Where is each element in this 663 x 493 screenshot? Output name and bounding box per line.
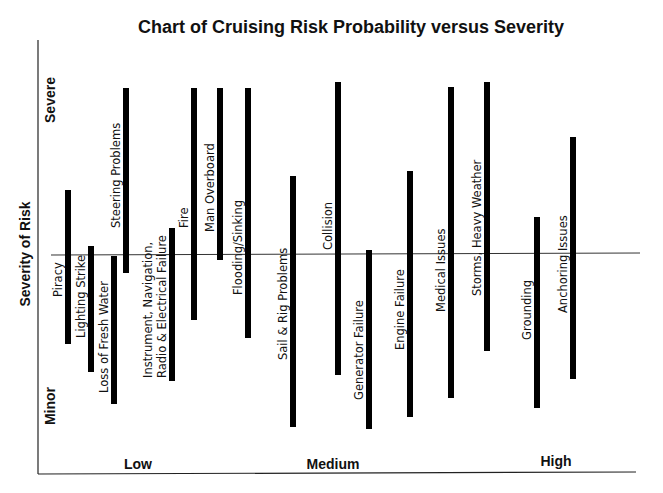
risk-bar: [245, 88, 251, 338]
risk-bar-label: Instrument, Navigation,: [141, 242, 155, 378]
risk-bar: [123, 88, 129, 273]
risk-bar-group: Anchoring Issues: [556, 137, 576, 379]
risk-bar: [366, 250, 372, 429]
risk-bar: [534, 217, 540, 408]
risk-bar: [111, 256, 117, 404]
risk-bar: [407, 171, 413, 417]
risk-bar-group: Grounding: [520, 217, 540, 408]
risk-bar-label: Man Overboard: [203, 143, 217, 232]
risk-bar: [217, 88, 223, 260]
risk-bar-label: Generator Failure: [352, 300, 366, 400]
y-label-severe: Severe: [42, 77, 58, 123]
y-label-minor: Minor: [42, 386, 58, 425]
risk-bar-label: Grounding: [520, 280, 534, 340]
risk-bar-label: Flooding/Sinking: [231, 200, 245, 295]
risk-bar-label: Collision: [321, 202, 335, 250]
risk-bar-group: Loss of Fresh Water: [97, 256, 117, 404]
risk-bar-label: Sail & Rig Problems: [276, 248, 290, 360]
risk-bars: PiracyLighting StrikeLoss of Fresh Water…: [51, 82, 576, 429]
risk-bar: [448, 87, 454, 398]
risk-bar-group: Engine Failure: [393, 171, 413, 417]
risk-bar-group: Steering Problems: [109, 88, 129, 273]
risk-bar-label: Piracy: [51, 262, 65, 297]
y-axis-title: Severity of Risk: [17, 201, 33, 306]
risk-bar: [290, 176, 296, 427]
risk-bar-group: Piracy: [51, 190, 71, 344]
risk-bar: [88, 246, 94, 372]
x-label-low: Low: [124, 456, 152, 472]
chart-title: Chart of Cruising Risk Probability versu…: [138, 17, 564, 37]
risk-bar-group: Sail & Rig Problems: [276, 176, 296, 427]
risk-bar-group: Medical Issues: [434, 87, 454, 398]
risk-chart: Chart of Cruising Risk Probability versu…: [0, 0, 663, 493]
risk-bar-group: Collision: [321, 82, 341, 375]
risk-bar: [191, 88, 197, 320]
risk-bar-label: Storms, Heavy Weather: [470, 159, 484, 296]
risk-bar-label: Engine Failure: [393, 269, 407, 350]
risk-bar: [335, 82, 341, 375]
risk-bar-label: Radio & Electrical Failure: [155, 235, 169, 378]
risk-bar-group: Instrument, Navigation,Radio & Electrica…: [141, 228, 175, 381]
risk-bar-label: Loss of Fresh Water: [97, 281, 111, 393]
risk-bar: [484, 82, 490, 351]
risk-bar: [169, 228, 175, 381]
risk-bar-group: Generator Failure: [352, 250, 372, 429]
x-axis: [38, 472, 636, 474]
risk-bar-label: Fire: [177, 207, 191, 228]
risk-bar-label: Medical Issues: [434, 229, 448, 312]
risk-bar: [65, 190, 71, 344]
x-label-medium: Medium: [307, 456, 360, 472]
risk-bar-group: Fire: [177, 88, 197, 320]
risk-bar-group: Flooding/Sinking: [231, 88, 251, 338]
risk-bar-group: Storms, Heavy Weather: [470, 82, 490, 351]
risk-bar-group: Man Overboard: [203, 88, 223, 260]
risk-bar-label: Lighting Strike: [74, 255, 88, 338]
risk-bar-label: Anchoring Issues: [556, 215, 570, 313]
midline: [51, 253, 640, 255]
risk-bar-label: Steering Problems: [109, 123, 123, 228]
risk-bar: [570, 137, 576, 379]
x-label-high: High: [540, 453, 571, 469]
risk-bar-group: Lighting Strike: [74, 246, 94, 372]
